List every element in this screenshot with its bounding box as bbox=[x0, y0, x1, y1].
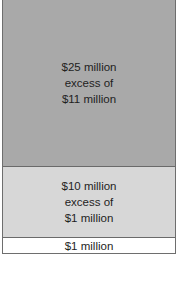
layer-label-line: excess of bbox=[62, 194, 117, 210]
layer-excess-25m-over-11m: $25 million excess of $11 million bbox=[3, 0, 175, 167]
layer-label: $25 million excess of $11 million bbox=[62, 59, 117, 107]
layer-label-line: $1 million bbox=[65, 238, 114, 254]
layer-label-line: $25 million bbox=[62, 59, 117, 75]
layer-label-line: excess of bbox=[62, 75, 117, 91]
layer-label: $10 million excess of $1 million bbox=[62, 178, 117, 226]
layer-excess-10m-over-1m: $10 million excess of $1 million bbox=[3, 167, 175, 238]
layer-primary-1m: $1 million bbox=[3, 238, 175, 253]
layer-label-line: $1 million bbox=[62, 210, 117, 226]
layer-label-line: $10 million bbox=[62, 178, 117, 194]
insurance-layer-stack: $25 million excess of $11 million $10 mi… bbox=[2, 0, 176, 254]
layer-label-line: $11 million bbox=[62, 91, 117, 107]
